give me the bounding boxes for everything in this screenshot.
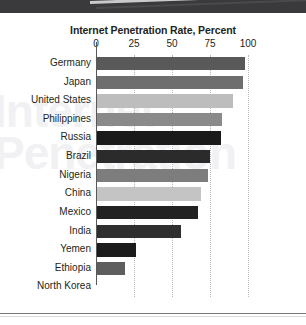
chart-title: Internet Penetration Rate, Percent xyxy=(0,24,306,36)
bar xyxy=(96,206,198,219)
x-tick-label: 25 xyxy=(128,38,139,49)
category-label: Brazil xyxy=(66,149,91,163)
category-label: Germany xyxy=(50,56,91,70)
bar xyxy=(96,169,208,182)
x-tick-label: 100 xyxy=(240,38,257,49)
bar-row: Japan xyxy=(96,74,248,93)
bar-row: Philippines xyxy=(96,111,248,130)
bar xyxy=(96,94,233,107)
category-label: Ethiopia xyxy=(55,261,91,275)
category-label: Russia xyxy=(60,130,91,144)
bar xyxy=(96,76,243,89)
category-label: Japan xyxy=(64,75,91,89)
category-label: Yemen xyxy=(60,242,91,256)
bottom-divider xyxy=(0,313,306,314)
top-banner xyxy=(0,0,306,13)
x-tick-label: 50 xyxy=(166,38,177,49)
y-axis-line xyxy=(96,42,97,285)
bar xyxy=(96,262,125,275)
bar-row: United States xyxy=(96,92,248,111)
bar-row: China xyxy=(96,185,248,204)
bar-row: Nigeria xyxy=(96,167,248,186)
category-label: China xyxy=(65,186,91,200)
bar xyxy=(96,150,210,163)
bar xyxy=(96,131,221,144)
bar-row: Mexico xyxy=(96,204,248,223)
x-tick-label: 75 xyxy=(204,38,215,49)
bar-row: Yemen xyxy=(96,241,248,260)
category-label: India xyxy=(69,224,91,238)
category-label: United States xyxy=(31,93,91,107)
internet-penetration-bar-chart: Internet Penetration Rate, Percent 02550… xyxy=(0,13,306,303)
bar xyxy=(96,57,245,70)
bar xyxy=(96,187,201,200)
category-label: Nigeria xyxy=(59,168,91,182)
category-label: Philippines xyxy=(43,112,91,126)
bar xyxy=(96,225,181,238)
bar-row: Brazil xyxy=(96,148,248,167)
bar xyxy=(96,243,136,256)
bar-row: India xyxy=(96,223,248,242)
bar-row: Ethiopia xyxy=(96,260,248,279)
bar-row: North Korea xyxy=(96,278,248,297)
bar-row: Germany xyxy=(96,55,248,74)
bar xyxy=(96,113,222,126)
gridline xyxy=(248,55,250,297)
category-label: Mexico xyxy=(59,205,91,219)
plot-area: GermanyJapanUnited StatesPhilippinesRuss… xyxy=(96,55,248,297)
x-axis-tick-labels: 0255075100 xyxy=(96,38,248,52)
bottom-divider-secondary xyxy=(0,316,306,317)
bar-row: Russia xyxy=(96,129,248,148)
category-label: North Korea xyxy=(37,279,91,293)
